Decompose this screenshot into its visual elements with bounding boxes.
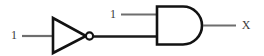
not-gate-triangle: [53, 18, 86, 53]
and-gate-body: [157, 7, 202, 45]
label-not-gate-input: 1: [11, 28, 17, 42]
label-and-gate-top-input: 1: [110, 7, 116, 21]
logic-circuit-diagram: 1 1 X: [0, 0, 264, 56]
label-output: X: [242, 18, 251, 32]
not-gate-bubble-icon: [86, 32, 93, 39]
circuit-canvas: 1 1 X: [0, 0, 264, 56]
